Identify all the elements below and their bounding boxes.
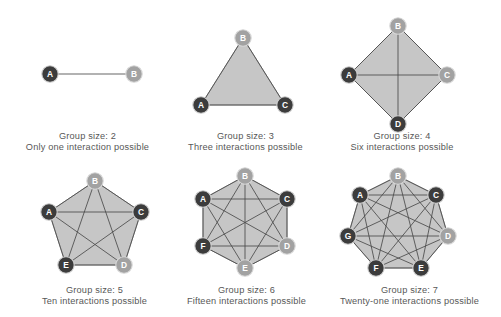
panel-group-7-node-B: B <box>390 168 406 184</box>
caption-group-7-interactions: Twenty-one interactions possible <box>318 296 501 307</box>
panel-group-7-node-A-circle <box>352 187 368 203</box>
caption-group-7-size: Group size: 7 <box>318 285 501 296</box>
panel-group-7-graph: BCDEFGA <box>0 0 501 317</box>
panel-group-7-node-G: G <box>340 228 356 244</box>
panel-group-7-node-B-circle <box>390 168 406 184</box>
panel-group-7-node-E-circle <box>413 260 429 276</box>
panel-group-7-node-A: A <box>352 187 368 203</box>
panel-group-7-node-C: C <box>428 187 444 203</box>
panel-group-7-node-G-circle <box>340 228 356 244</box>
panel-group-7-node-E: E <box>413 260 429 276</box>
panel-group-7-node-F-circle <box>368 260 384 276</box>
interaction-diagram-figure: ABGroup size: 2Only one interaction poss… <box>0 0 501 317</box>
panel-group-7-node-D: D <box>440 228 456 244</box>
caption-group-7: Group size: 7Twenty-one interactions pos… <box>318 285 501 307</box>
panel-group-7-node-F: F <box>368 260 384 276</box>
panel-group-7-node-D-circle <box>440 228 456 244</box>
panel-group-7-node-C-circle <box>428 187 444 203</box>
panel-group-7: BCDEFGA <box>0 0 501 317</box>
